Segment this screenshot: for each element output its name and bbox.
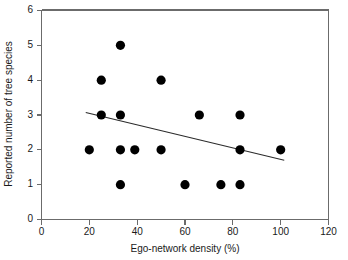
y-tick-label-2: 2 [27,143,33,154]
data-point [235,180,244,189]
y-tick-label-1: 1 [27,178,33,189]
y-axis-ticks [37,11,42,220]
x-tick-label-0: 0 [39,226,45,237]
trendline [86,113,285,161]
plot-canvas: 0 1 2 3 4 5 6 0 20 40 60 80 100 120 [0,0,348,260]
x-tick-label-60: 60 [179,226,191,237]
data-point [130,145,139,154]
x-tick-label-40: 40 [132,226,144,237]
x-axis-title: Ego-network density (%) [131,243,240,254]
x-tick-label-20: 20 [84,226,96,237]
data-point [97,110,106,119]
data-points-group [85,41,286,190]
y-tick-label-4: 4 [27,74,33,85]
data-point [156,76,165,85]
data-point [216,180,225,189]
y-axis-tick-labels: 0 1 2 3 4 5 6 [27,4,33,224]
data-point [156,145,165,154]
x-axis-ticks [42,220,329,225]
data-point [235,145,244,154]
x-tick-label-80: 80 [227,226,239,237]
data-point [276,145,285,154]
data-point [116,41,125,50]
y-tick-label-0: 0 [27,213,33,224]
data-point [116,110,125,119]
data-point [85,145,94,154]
data-point [195,110,204,119]
x-axis-tick-labels: 0 20 40 60 80 100 120 [39,226,338,237]
data-point [116,180,125,189]
scatter-plot-figure: 0 1 2 3 4 5 6 0 20 40 60 80 100 120 [0,0,348,260]
y-tick-label-3: 3 [27,109,33,120]
data-point [97,76,106,85]
data-point [235,110,244,119]
x-tick-label-100: 100 [272,226,289,237]
y-tick-label-6: 6 [27,4,33,15]
y-tick-label-5: 5 [27,39,33,50]
y-axis-title: Reported number of tree species [3,41,14,187]
data-point [116,145,125,154]
data-point [180,180,189,189]
x-tick-label-120: 120 [320,226,337,237]
